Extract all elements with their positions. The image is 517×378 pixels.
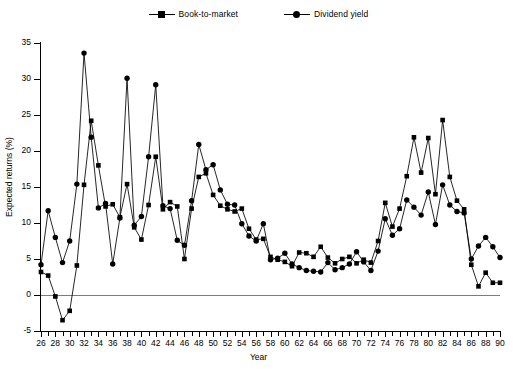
x-tick-label-76: 76 — [395, 339, 404, 348]
x-tick-76 — [400, 332, 401, 337]
chart-figure: Book-to-market Dividend yield Expected r… — [0, 0, 517, 378]
square-marker — [483, 270, 488, 275]
x-tick-83 — [450, 332, 451, 336]
x-tick-65 — [321, 332, 322, 336]
x-tick-label-54: 54 — [237, 339, 246, 348]
circle-marker — [117, 215, 122, 220]
square-marker — [326, 255, 331, 260]
square-marker — [469, 262, 474, 267]
square-marker — [103, 204, 108, 209]
x-tick-label-66: 66 — [323, 339, 332, 348]
x-tick-68 — [342, 332, 343, 337]
square-marker — [254, 237, 259, 242]
square-marker — [275, 257, 280, 262]
x-tick-59 — [278, 332, 279, 336]
series-dividend-yield — [38, 50, 502, 274]
x-tick-57 — [263, 332, 264, 336]
circle-marker — [469, 256, 474, 261]
x-tick-label-88: 88 — [481, 339, 490, 348]
circle-marker — [426, 189, 431, 194]
x-tick-50 — [213, 332, 214, 337]
circle-marker-icon — [284, 9, 310, 19]
x-tick-42 — [156, 332, 157, 337]
x-tick-61 — [292, 332, 293, 336]
y-tick-label-30: 30 — [0, 74, 31, 83]
circle-marker — [160, 203, 165, 208]
circle-marker — [74, 181, 79, 186]
circle-marker — [304, 268, 309, 273]
circle-marker — [182, 243, 187, 248]
square-marker — [118, 215, 123, 220]
x-tick-label-68: 68 — [337, 339, 346, 348]
x-tick-label-32: 32 — [79, 339, 88, 348]
x-tick-90 — [500, 332, 501, 337]
x-tick-33 — [91, 332, 92, 336]
circle-marker — [139, 214, 144, 219]
x-tick-63 — [306, 332, 307, 336]
x-tick-32 — [84, 332, 85, 337]
y-tick-15 — [34, 187, 40, 188]
x-tick-78 — [414, 332, 415, 337]
square-marker — [146, 203, 151, 208]
x-tick-55 — [249, 332, 250, 336]
circle-marker — [246, 233, 251, 238]
square-marker — [283, 260, 288, 265]
x-tick-37 — [120, 332, 121, 336]
x-tick-label-42: 42 — [151, 339, 160, 348]
circle-marker — [67, 238, 72, 243]
series-book-to-market — [39, 118, 503, 323]
x-tick-27 — [48, 332, 49, 336]
x-axis-title: Year — [0, 352, 517, 362]
square-marker — [110, 202, 115, 207]
square-marker — [189, 206, 194, 211]
square-marker — [462, 207, 467, 212]
square-marker — [161, 207, 166, 212]
square-marker — [448, 175, 453, 180]
square-marker — [390, 224, 395, 229]
x-tick-84 — [457, 332, 458, 337]
square-marker — [211, 193, 216, 198]
square-marker — [268, 255, 273, 260]
x-tick-label-90: 90 — [495, 339, 504, 348]
x-tick-80 — [428, 332, 429, 337]
circle-marker — [454, 209, 459, 214]
x-tick-label-36: 36 — [108, 339, 117, 348]
x-tick-89 — [493, 332, 494, 336]
x-tick-49 — [206, 332, 207, 336]
circle-marker — [497, 255, 502, 260]
x-tick-58 — [271, 332, 272, 337]
circle-marker — [418, 212, 423, 217]
x-tick-label-52: 52 — [223, 339, 232, 348]
y-axis-line — [40, 42, 41, 332]
x-tick-label-82: 82 — [438, 339, 447, 348]
circle-marker — [347, 261, 352, 266]
x-tick-87 — [478, 332, 479, 336]
x-tick-label-40: 40 — [137, 339, 146, 348]
circle-marker — [375, 248, 380, 253]
square-marker — [60, 318, 65, 323]
x-tick-77 — [407, 332, 408, 336]
x-tick-88 — [486, 332, 487, 337]
square-marker — [311, 255, 316, 260]
x-tick-40 — [141, 332, 142, 337]
x-tick-26 — [41, 332, 42, 337]
x-tick-71 — [364, 332, 365, 336]
x-tick-64 — [314, 332, 315, 337]
square-marker — [168, 200, 173, 205]
square-marker — [67, 309, 72, 314]
circle-marker — [383, 216, 388, 221]
circle-marker — [132, 222, 137, 227]
circle-marker — [461, 210, 466, 215]
y-tick-label-15: 15 — [0, 182, 31, 191]
x-tick-51 — [220, 332, 221, 336]
x-tick-73 — [378, 332, 379, 336]
square-marker — [433, 192, 438, 197]
y-tick-35 — [34, 43, 40, 44]
square-marker — [153, 154, 158, 159]
legend-entry-dividend-yield: Dividend yield — [284, 9, 368, 19]
y-tick-label-35: 35 — [0, 38, 31, 47]
square-marker — [412, 135, 417, 140]
square-marker — [340, 257, 345, 262]
x-tick-label-64: 64 — [309, 339, 318, 348]
x-tick-label-28: 28 — [51, 339, 60, 348]
